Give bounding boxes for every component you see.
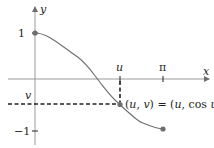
- y-axis-label: y: [39, 3, 47, 16]
- marked-point-label: (u, v) = (u, cos u): [125, 98, 214, 111]
- cosine-graph-figure: y x 1 v −1 u π (u, v) = (u, cos u): [0, 0, 214, 148]
- marked-point: [117, 102, 122, 107]
- x-axis-label: x: [203, 65, 210, 78]
- y-tick-label-neg1: −1: [14, 125, 30, 138]
- start-point: [32, 30, 37, 35]
- end-point: [160, 126, 165, 131]
- y-tick-label-1: 1: [18, 27, 25, 40]
- y-tick-label-v: v: [25, 89, 32, 102]
- x-tick-label-pi: π: [159, 61, 166, 74]
- cosine-curve: [35, 33, 163, 129]
- x-tick-label-u: u: [116, 61, 123, 74]
- cosine-graph: y x 1 v −1 u π (u, v) = (u, cos u): [0, 0, 214, 148]
